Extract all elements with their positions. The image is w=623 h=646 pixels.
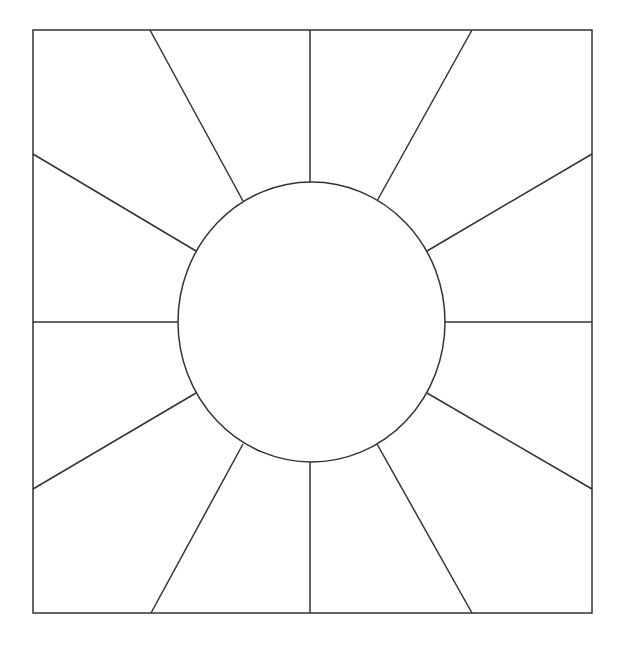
ray-line-4 [427,154,592,251]
center-circle [178,182,445,462]
ray-line-2 [377,30,472,201]
ray-line-9 [151,444,243,613]
ray-line-10 [377,444,472,613]
ray-line-7 [33,393,196,489]
ray-line-1 [150,30,243,201]
sunburst-diagram [0,0,623,646]
ray-line-3 [33,154,196,251]
ray-line-8 [427,393,592,489]
